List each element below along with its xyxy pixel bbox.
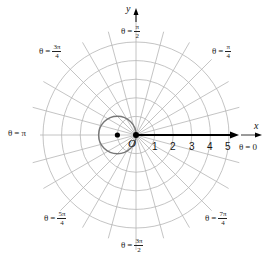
ray-arrowhead: [230, 132, 239, 139]
angle-fraction: π2: [134, 23, 140, 40]
y-axis-label: y: [126, 3, 130, 14]
angle-label-theta-0: θ=0: [239, 143, 257, 152]
r-tick-1: 1: [152, 141, 158, 152]
grid-spoke: [43, 135, 136, 188]
angle-label-theta-3pi-4: θ= 3π4: [39, 43, 61, 60]
fraction-numerator: 5π: [57, 210, 66, 219]
equals-sign: =: [45, 47, 50, 56]
grid-spoke: [43, 82, 136, 135]
equals-sign: =: [245, 143, 250, 152]
theta-symbol: θ: [212, 47, 216, 56]
grid-spoke: [136, 42, 189, 135]
theta-symbol: θ: [39, 47, 43, 56]
r-tick-4: 4: [207, 141, 213, 152]
fraction-denominator: 4: [226, 52, 230, 60]
r-tick-3: 3: [189, 141, 195, 152]
grid-spoke: [83, 42, 136, 135]
grid-spoke: [33, 135, 136, 163]
grid-spoke: [108, 32, 136, 135]
angle-label-theta-3pi-2: θ= 3π2: [121, 237, 143, 254]
grid-spoke: [33, 107, 136, 135]
fraction-numerator: π: [225, 43, 231, 52]
grid-spoke: [108, 135, 136, 238]
grid-spoke: [136, 107, 239, 135]
fraction-denominator: 2: [137, 246, 141, 254]
fraction-denominator: 2: [135, 32, 139, 40]
theta-symbol: θ: [205, 214, 209, 223]
grid-spoke: [136, 135, 164, 238]
angle-fraction: 3π2: [134, 237, 143, 254]
fraction-numerator: 3π: [134, 237, 143, 246]
angle-label-theta-5pi-4: θ= 5π4: [44, 210, 66, 227]
grid-spoke: [136, 82, 229, 135]
fraction-denominator: 4: [221, 219, 225, 227]
y-axis-arrowhead: [134, 8, 139, 15]
angle-label-theta-pi-4: θ= π4: [212, 43, 231, 60]
x-axis-arrowhead: [255, 133, 262, 138]
theta-symbol: θ: [8, 129, 12, 138]
r-tick-5: 5: [225, 141, 231, 152]
origin-label: O: [128, 137, 136, 149]
angle-fraction: 3π4: [52, 43, 61, 60]
angle-label-theta-7pi-4: θ= 7π4: [205, 210, 227, 227]
angle-fraction: 5π4: [57, 210, 66, 227]
angle-value: 0: [252, 143, 257, 152]
angle-value: π: [21, 129, 26, 138]
equals-sign: =: [127, 27, 132, 36]
r-tick-2: 2: [170, 141, 176, 152]
x-axis-label: x: [254, 120, 258, 131]
circle-center-point: [115, 132, 120, 137]
fraction-denominator: 4: [55, 52, 59, 60]
angle-fraction: 7π4: [218, 210, 227, 227]
theta-symbol: θ: [239, 143, 243, 152]
equals-sign: =: [218, 47, 223, 56]
fraction-numerator: π: [134, 23, 140, 32]
fraction-numerator: 7π: [218, 210, 227, 219]
theta-symbol: θ: [44, 214, 48, 223]
theta-symbol: θ: [121, 241, 125, 250]
fraction-denominator: 4: [60, 219, 64, 227]
fraction-numerator: 3π: [52, 43, 61, 52]
grid-spoke: [136, 135, 229, 188]
grid-spoke: [136, 32, 164, 135]
equals-sign: =: [127, 241, 132, 250]
angle-label-theta-pi: θ=π: [8, 129, 26, 138]
angle-label-theta-pi-2: θ= π2: [121, 23, 140, 40]
grid-spoke: [136, 135, 189, 228]
equals-sign: =: [14, 129, 19, 138]
equals-sign: =: [50, 214, 55, 223]
angle-fraction: π4: [225, 43, 231, 60]
theta-symbol: θ: [121, 27, 125, 36]
equals-sign: =: [211, 214, 216, 223]
